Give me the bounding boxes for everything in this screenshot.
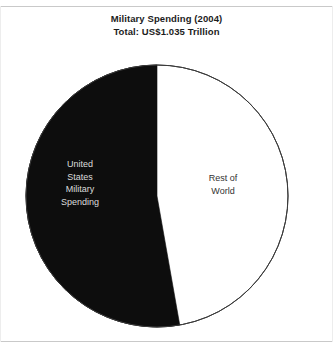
pie-slice-label-rest-of-world: Rest of World xyxy=(183,172,263,197)
pie-slice-label-line: States xyxy=(42,171,118,184)
pie-slice-label-line: Military xyxy=(42,183,118,196)
pie-slice-label-line: United xyxy=(42,158,118,171)
pie-slice-label-line: Spending xyxy=(42,196,118,209)
pie-slice-label-line: World xyxy=(183,185,263,198)
pie-slice-label-united-states: United States Military Spending xyxy=(42,158,118,208)
pie-slice-label-line: Rest of xyxy=(183,172,263,185)
chart-figure: Military Spending (2004) Total: US$1.035… xyxy=(0,0,333,350)
